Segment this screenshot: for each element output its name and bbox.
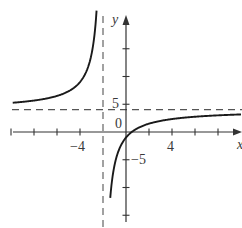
y-axis-label: y (110, 12, 119, 27)
right-branch-curve (110, 114, 241, 197)
x-axis-arrow-icon (233, 129, 242, 136)
x-tick-label-4: 4 (167, 139, 174, 154)
hyperbola-graph: y x 0 −4 4 5 −5 (0, 0, 242, 228)
y-axis-arrow-icon (123, 15, 130, 25)
x-tick-label-neg4: −4 (70, 139, 85, 154)
origin-label: 0 (115, 116, 122, 131)
axes (13, 15, 242, 222)
x-axis-label: x (236, 137, 242, 152)
y-tick-label-5: 5 (112, 96, 119, 111)
asymptotes (12, 16, 242, 228)
left-branch-curve (13, 11, 97, 103)
y-tick-label-neg5: −5 (131, 152, 146, 167)
axis-labels: y x 0 −4 4 5 −5 (70, 12, 242, 167)
